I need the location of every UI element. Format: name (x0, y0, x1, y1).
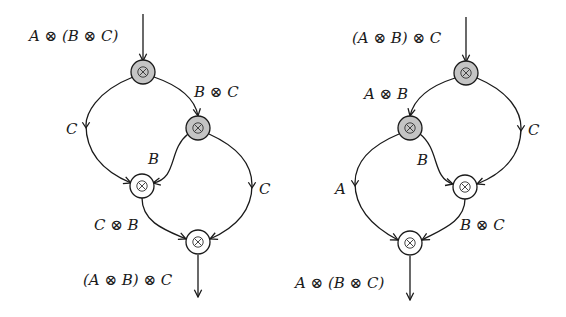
left-node-merge-bottom (186, 230, 210, 254)
right-label-C: C (528, 121, 540, 139)
left-wire-C-right (209, 134, 252, 185)
right-wire-BC (422, 199, 465, 240)
left-wire-C-left (86, 77, 133, 125)
left-input-label: A ⊗ (B ⊗ C) (27, 27, 118, 45)
right-input-label: (A ⊗ B) ⊗ C (352, 29, 442, 47)
left-node-merge-inner (130, 174, 154, 198)
left-wire-BC (154, 77, 198, 116)
right-node-merge-inner (453, 175, 477, 199)
right-label-A: A (333, 180, 346, 198)
left-label-CB: C ⊗ B (94, 216, 139, 234)
right-label-AB: A ⊗ B (362, 85, 408, 103)
right-output-label: A ⊗ (B ⊗ C) (293, 274, 384, 292)
right-wire-A (355, 134, 399, 183)
right-node-split-top (454, 61, 478, 85)
left-wire-C-right-lower (210, 185, 252, 239)
left-wire-C-left-lower (86, 125, 131, 183)
right-node-split-inner (398, 116, 422, 140)
left-node-split-top (131, 60, 155, 84)
right-label-BC: B ⊗ C (459, 216, 505, 234)
right-diagram: (A ⊗ B) ⊗ C A ⊗ B C B A B ⊗ C A ⊗ (B ⊗ C… (293, 17, 540, 300)
right-node-merge-bottom (398, 231, 422, 255)
right-wire-AB (410, 78, 455, 116)
right-label-B: B (416, 151, 428, 169)
left-node-split-inner (186, 116, 210, 140)
right-wire-A-lower (355, 183, 398, 240)
right-wire-C (477, 78, 521, 128)
string-diagram-canvas: A ⊗ (B ⊗ C) C B ⊗ C B C C ⊗ B (A ⊗ B) ⊗ … (0, 0, 566, 317)
left-wire-CB (142, 198, 186, 239)
left-diagram: A ⊗ (B ⊗ C) C B ⊗ C B C C ⊗ B (A ⊗ B) ⊗ … (27, 14, 271, 297)
right-wire-C-lower (477, 128, 521, 184)
left-output-label: (A ⊗ B) ⊗ C (83, 271, 173, 289)
left-label-C-left: C (66, 120, 78, 138)
left-label-C-right: C (259, 180, 271, 198)
left-label-B: B (147, 150, 159, 168)
left-label-BC: B ⊗ C (193, 83, 239, 101)
